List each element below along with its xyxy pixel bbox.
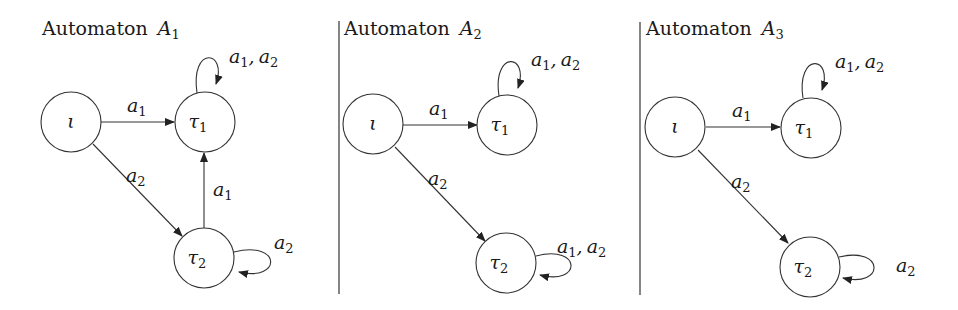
automaton-a3-title: Automaton A3 (645, 17, 784, 42)
state-tau1: τ1 (175, 92, 235, 152)
state-iota: ι (343, 94, 403, 154)
state-tau2: τ2 (780, 237, 840, 297)
self-loop-label-tau1: a1,a2 (835, 50, 884, 75)
svg-text:ι: ι (671, 115, 678, 137)
state-tau2: τ2 (174, 228, 234, 288)
self-loop-tau2 (536, 254, 571, 277)
automaton-a1-title: Automaton A1 (41, 17, 180, 42)
self-loop-label-tau2: a2 (274, 231, 294, 256)
state-iota: ι (41, 92, 101, 152)
svg-text:ι: ι (67, 110, 74, 132)
automaton-a2-title: Automaton A2 (343, 17, 482, 42)
edge-iota-tau2 (93, 144, 182, 236)
edge-label-iota-tau2: a2 (126, 164, 146, 189)
automaton-a2: Automaton A2 a1 a2 a1,a2 a1,a2 ι τ1 τ2 (343, 17, 606, 293)
self-loop-tau2 (839, 255, 874, 279)
edge-label-iota-tau1: a1 (429, 97, 449, 122)
state-tau1: τ1 (781, 98, 841, 158)
self-loop-tau1 (498, 62, 520, 96)
edge-label-iota-tau1: a1 (127, 94, 147, 119)
edge-label-iota-tau2: a2 (428, 167, 448, 192)
self-loop-tau2 (234, 250, 271, 274)
self-loop-label-tau1: a1,a2 (531, 48, 580, 73)
automata-figure: Automaton A1 a1 a2 a1 a1,a2 a2 ι τ1 τ2 (0, 0, 958, 310)
state-tau1: τ1 (477, 95, 537, 155)
automaton-a1: Automaton A1 a1 a2 a1 a1,a2 a2 ι τ1 τ2 (41, 17, 294, 288)
edge-label-iota-tau1: a1 (732, 99, 752, 124)
edge-label-tau2-tau1: a1 (213, 178, 233, 203)
self-loop-tau1 (196, 58, 218, 93)
svg-text:ι: ι (369, 112, 376, 134)
edge-iota-tau2 (395, 147, 485, 241)
self-loop-label-tau2: a2 (896, 254, 916, 279)
state-tau2: τ2 (476, 233, 536, 293)
state-iota: ι (645, 97, 705, 157)
self-loop-label-tau2: a1,a2 (557, 235, 606, 260)
edge-iota-tau2 (698, 150, 788, 243)
edge-label-iota-tau2: a2 (731, 170, 751, 195)
self-loop-label-tau1: a1,a2 (229, 45, 278, 70)
self-loop-tau1 (802, 64, 824, 98)
automaton-a3: Automaton A3 a1 a2 a1,a2 a2 ι τ1 τ2 (645, 17, 916, 297)
